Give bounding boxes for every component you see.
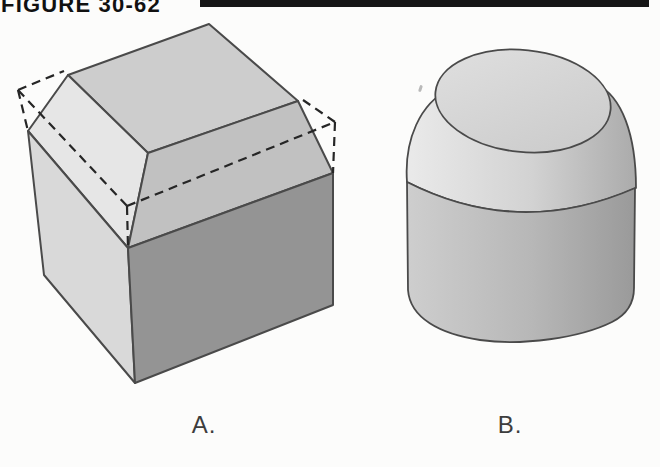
hidden-edge-front-corner [127, 206, 128, 248]
hidden-edge-right-corner [333, 122, 335, 173]
hidden-edge-left-back [18, 71, 64, 90]
caption-b: B. [486, 411, 534, 439]
chamfered-cube-illustration [18, 24, 335, 383]
hidden-edge-right-back [303, 100, 335, 122]
chamfered-cylinder-illustration [407, 41, 636, 342]
caption-a: A. [180, 411, 228, 439]
figure-canvas [0, 0, 660, 467]
scanned-figure-page: FIGURE 30-62 [0, 0, 660, 467]
